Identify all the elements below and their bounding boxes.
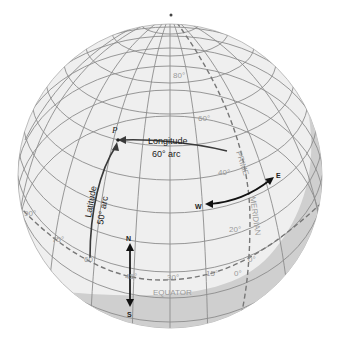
- lon-tick-0: 0°: [234, 269, 242, 278]
- longitude-value: 60° arc: [152, 149, 181, 159]
- west-label: W: [195, 203, 202, 210]
- east-label: E: [276, 172, 281, 179]
- longitude-label: Longitude: [148, 136, 188, 146]
- lat-tick-80: 80°: [173, 71, 185, 80]
- north-pole-dot: [170, 14, 173, 17]
- north-label: N: [126, 235, 131, 242]
- equator-label: EQUATOR: [153, 288, 192, 297]
- south-label: S: [127, 311, 132, 318]
- point-p-label: P: [111, 125, 118, 135]
- lon-tick-90: 90°: [24, 209, 36, 218]
- lat-tick-40: 40°: [218, 168, 230, 177]
- lat-tick-60: 60°: [198, 114, 210, 123]
- lon-tick-30: 30°: [167, 273, 179, 282]
- lon-tick-60: 60°: [84, 255, 96, 264]
- lat-tick-20: 20°: [229, 225, 241, 234]
- lat-tick-0: 0°: [248, 255, 256, 264]
- point-p: [116, 138, 120, 142]
- globe-diagram: P Longitude 60° arc Latitude 50° arc N S…: [0, 0, 340, 348]
- lon-tick-15: 15°: [206, 269, 218, 278]
- lon-tick-45: 45°: [125, 272, 137, 281]
- lon-tick-75: 75°: [52, 235, 64, 244]
